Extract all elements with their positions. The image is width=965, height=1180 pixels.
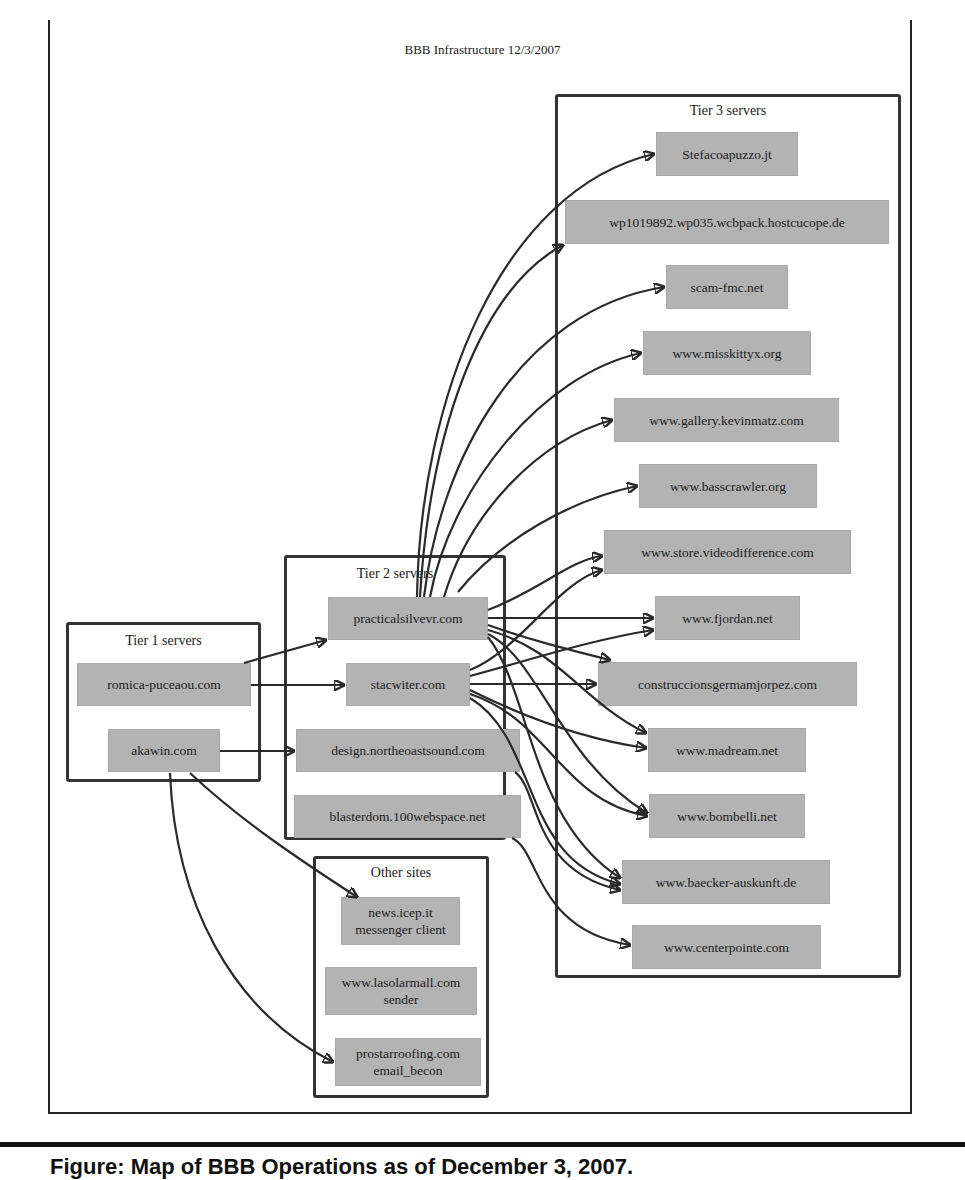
node-label: www.basscrawler.org (670, 478, 786, 495)
cluster-label: Tier 2 servers (287, 566, 503, 582)
cluster-label: Tier 3 servers (558, 103, 898, 119)
node-label: www.store.videodifference.com (641, 544, 813, 561)
node-tier3[interactable]: www.store.videodifference.com (604, 530, 851, 574)
node-tier3[interactable]: www.fjordan.net (655, 596, 800, 640)
node-label: www.centerpointe.com (664, 939, 789, 956)
node-label: prostarroofing.com (356, 1045, 460, 1062)
node-tier3[interactable]: www.basscrawler.org (639, 464, 817, 508)
diagram-title: BBB Infrastructure 12/3/2007 (0, 42, 965, 58)
cluster-label: Other sites (316, 865, 486, 881)
node-tier2[interactable]: design.northeoastsound.com (296, 729, 520, 772)
node-tier1[interactable]: romica-puceaou.com (77, 663, 251, 706)
node-label: www.gallery.kevinmatz.com (649, 412, 804, 429)
node-other[interactable]: www.lasolarmall.com sender (325, 967, 477, 1015)
node-label: www.misskittyx.org (672, 345, 781, 362)
node-tier2[interactable]: blasterdom.100webspace.net (294, 795, 521, 838)
node-tier2[interactable]: stacwiter.com (346, 663, 470, 706)
node-tier3[interactable]: www.misskittyx.org (643, 331, 811, 375)
node-tier3[interactable]: Stefacoapuzzo.jt (656, 132, 798, 176)
node-other[interactable]: prostarroofing.com email_becon (335, 1038, 481, 1086)
node-label: stacwiter.com (371, 676, 446, 693)
node-label: akawin.com (131, 742, 197, 759)
node-label: blasterdom.100webspace.net (330, 808, 486, 825)
node-label: practicalsilvevr.com (353, 610, 462, 627)
node-sublabel: sender (383, 991, 418, 1008)
node-label: www.lasolarmall.com (342, 974, 460, 991)
node-label: construccionsgermamjorpez.com (638, 676, 817, 693)
node-label: www.madream.net (676, 742, 778, 759)
node-sublabel: email_becon (374, 1062, 443, 1079)
node-label: www.bombelli.net (677, 808, 777, 825)
figure-caption: Figure: Map of BBB Operations as of Dece… (50, 1154, 633, 1180)
node-label: scam-fmc.net (690, 279, 763, 296)
node-label: design.northeoastsound.com (331, 742, 485, 759)
node-tier3[interactable]: www.baecker-auskunft.de (622, 860, 830, 904)
node-label: romica-puceaou.com (107, 676, 221, 693)
node-tier3[interactable]: scam-fmc.net (666, 265, 788, 309)
cluster-label: Tier 1 servers (69, 633, 258, 649)
node-tier1[interactable]: akawin.com (108, 729, 220, 772)
node-label: www.baecker-auskunft.de (656, 874, 797, 891)
node-tier3[interactable]: www.bombelli.net (649, 794, 805, 838)
node-tier2[interactable]: practicalsilvevr.com (328, 597, 488, 640)
node-tier3[interactable]: www.madream.net (648, 728, 806, 772)
node-other[interactable]: news.icep.it messenger client (341, 897, 460, 945)
node-label: wp1019892.wp035.wcbpack.hostcucope.de (609, 214, 844, 231)
node-tier3[interactable]: www.gallery.kevinmatz.com (614, 398, 839, 442)
node-label: Stefacoapuzzo.jt (682, 146, 772, 163)
node-sublabel: messenger client (355, 921, 445, 938)
node-tier3[interactable]: wp1019892.wp035.wcbpack.hostcucope.de (565, 200, 889, 244)
node-label: www.fjordan.net (682, 610, 773, 627)
node-tier3[interactable]: construccionsgermamjorpez.com (598, 662, 857, 706)
section-divider (0, 1142, 965, 1147)
node-tier3[interactable]: www.centerpointe.com (632, 925, 821, 969)
node-label: news.icep.it (368, 904, 432, 921)
